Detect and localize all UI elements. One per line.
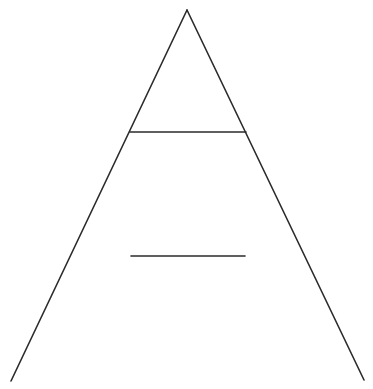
pyramid-left-side [11,10,187,381]
pyramid-svg [0,0,373,389]
pyramid-right-side [187,10,364,380]
pyramid-diagram [0,0,373,389]
